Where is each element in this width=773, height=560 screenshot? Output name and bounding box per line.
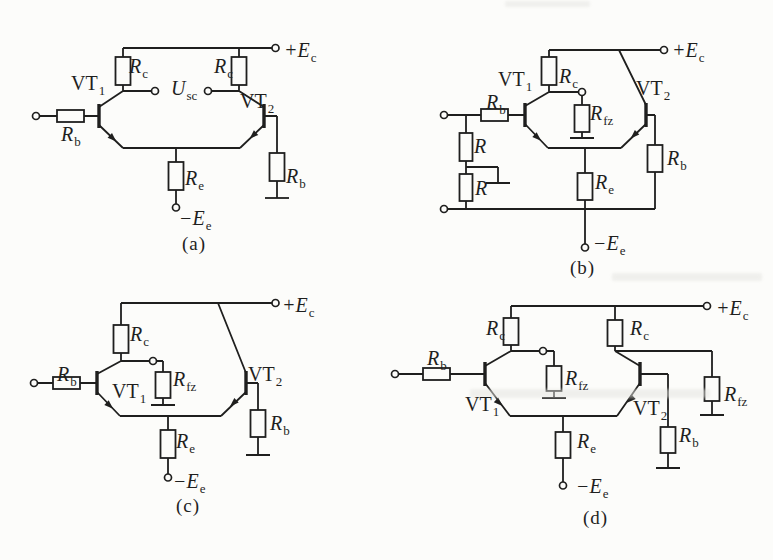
label-main: R (475, 177, 487, 199)
input-terminal (31, 380, 38, 387)
label-main: R (590, 102, 602, 124)
scan-bleed-smudge (470, 389, 710, 398)
label-main: VT (636, 77, 663, 99)
label-b-rb-right: Rb (667, 148, 687, 172)
label-b-vt2: VT2 (636, 78, 670, 102)
label-a-rc-right: Rc (214, 56, 233, 80)
resistor-rb-right (648, 145, 663, 172)
label-main: VT (633, 397, 660, 419)
label-main: R (61, 123, 73, 145)
caption-c: (c) (176, 496, 200, 516)
label-d-re: Re (577, 431, 596, 455)
resistor-re (161, 430, 176, 458)
resistor-rc (542, 57, 557, 85)
label-a-usc: Usc (171, 78, 197, 102)
label-main: R (173, 368, 185, 390)
label-main: VT (498, 68, 525, 90)
label-sub: b (299, 176, 306, 191)
label-b-r-lower: R (475, 178, 488, 202)
label-d-rfz-right: Rfz (724, 384, 747, 408)
label-b-r-upper: R (474, 136, 487, 160)
label-c-rc: Rc (130, 324, 149, 348)
label-main: R (486, 91, 498, 113)
resistor-rc-right (232, 57, 247, 85)
transistor-bars (485, 362, 640, 386)
resistor-rc-right (608, 320, 623, 346)
label-d-vt2: VT2 (633, 398, 667, 422)
circuit-c-schematic (31, 300, 280, 482)
output-terminal (150, 358, 157, 365)
label-main: VT (465, 393, 492, 415)
label-main: VT (240, 90, 267, 112)
label-main: R (130, 323, 142, 345)
label-a-re: Re (185, 168, 204, 192)
label-main: R (176, 430, 188, 452)
output-terminal-right (205, 88, 212, 95)
resistor-rb-input (57, 110, 84, 122)
caption-d: (d) (583, 508, 608, 528)
label-main: +E (284, 39, 310, 61)
label-main: R (214, 55, 226, 77)
label-main: +E (672, 39, 698, 61)
label-sub: b (499, 102, 506, 117)
label-sub: b (692, 435, 699, 450)
label-sub: c (142, 66, 148, 81)
ec-terminal (272, 300, 279, 307)
label-b-rb-input: Rb (486, 92, 506, 116)
label-c-ee: −Ee (173, 471, 206, 495)
label-d-ee: −Ee (576, 476, 609, 500)
label-sub: c (227, 66, 233, 81)
label-main: R (565, 367, 577, 389)
label-main: R (129, 55, 141, 77)
label-main: R (630, 317, 642, 339)
resistor-rb-right (661, 427, 676, 453)
resistor-rb-right (251, 410, 266, 437)
resistor-rc-left (504, 318, 519, 345)
label-d-vt1: VT1 (465, 394, 499, 418)
label-c-vt2: VT2 (248, 364, 282, 388)
label-sub: b (680, 158, 687, 173)
caption-a: (a) (182, 234, 206, 254)
label-sub: c (699, 50, 705, 65)
label-main: VT (112, 380, 139, 402)
label-sub: b (70, 374, 77, 389)
ee-terminal (165, 474, 172, 481)
label-b-rfz: Rfz (590, 103, 613, 127)
scan-bleed-smudge (505, 1, 590, 7)
label-sub: c (499, 328, 505, 343)
label-a-rb-input: Rb (61, 124, 81, 148)
label-main: R (679, 424, 691, 446)
label-a-vt2: VT2 (240, 91, 274, 115)
label-sub: e (603, 486, 609, 501)
scan-bleed-smudge (612, 273, 762, 281)
resistor-rb-right (270, 153, 285, 181)
figure-canvas: VT1 Rc Rc Usc VT2 +Ec Rb Rb Re −Ee (a) V… (0, 0, 773, 560)
label-sub: c (143, 334, 149, 349)
label-d-rc-right: Rc (630, 318, 649, 342)
label-sub: 2 (664, 88, 671, 103)
label-main: −E (173, 470, 199, 492)
label-c-rfz: Rfz (173, 369, 196, 393)
ec-terminal (704, 303, 711, 310)
label-main: R (486, 317, 498, 339)
label-main: +E (716, 297, 742, 319)
label-main: R (270, 412, 282, 434)
label-sub: fz (186, 379, 196, 394)
label-main: R (427, 347, 439, 369)
input-terminal (392, 371, 399, 378)
resistor-re (169, 162, 184, 190)
label-sub: b (283, 423, 290, 438)
label-sub: e (189, 441, 195, 456)
resistor-rc (114, 325, 129, 353)
label-sub: b (74, 134, 81, 149)
label-sub: fz (578, 378, 588, 393)
label-sub: c (743, 308, 749, 323)
label-sub: e (620, 243, 626, 258)
label-main: R (474, 135, 486, 157)
label-sub: sc (186, 88, 197, 103)
label-main: R (667, 147, 679, 169)
ec-terminal (661, 47, 668, 54)
label-main: −E (576, 475, 602, 497)
resistor-r-lower (460, 174, 473, 201)
label-d-rc-left: Rc (486, 318, 505, 342)
